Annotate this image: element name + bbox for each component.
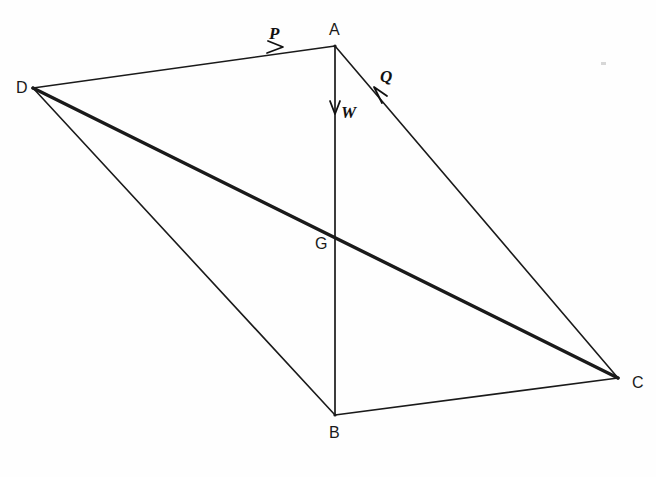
edge-D-C-diagonal xyxy=(33,88,618,378)
force-label-Q: Q xyxy=(380,68,392,85)
vertex-dot-B xyxy=(333,413,336,416)
vertex-label-B: B xyxy=(329,425,340,441)
arrowhead-group xyxy=(267,41,387,114)
edge-D-B xyxy=(33,88,335,415)
diagram-canvas xyxy=(0,0,656,477)
scan-speck-artifact xyxy=(601,62,606,65)
vertex-label-D: D xyxy=(16,80,28,96)
force-label-W: W xyxy=(341,104,356,121)
force-diagram-figure: A B C D G P Q W xyxy=(0,0,656,477)
edge-D-A xyxy=(33,46,335,88)
vertex-label-A: A xyxy=(329,22,340,38)
vertex-label-C: C xyxy=(632,375,644,391)
vertex-dot-C xyxy=(616,376,619,379)
edge-group xyxy=(33,46,618,415)
vertex-label-G: G xyxy=(315,236,328,252)
vertex-dot-A xyxy=(333,44,336,47)
vertex-dot-group xyxy=(31,44,619,416)
vertex-dot-D xyxy=(31,86,34,89)
edge-B-C xyxy=(335,378,618,415)
force-label-P: P xyxy=(269,25,279,42)
